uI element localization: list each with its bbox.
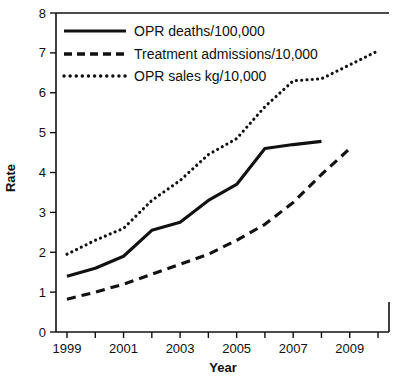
series-line-dashed — [67, 149, 350, 300]
y-tick-label: 8 — [39, 6, 46, 21]
x-axis-title: Year — [209, 360, 236, 375]
y-axis-ticks: 012345678 — [39, 6, 56, 340]
x-tick-label: 2001 — [109, 341, 138, 356]
y-tick-label: 0 — [39, 325, 46, 340]
line-chart-figure: 012345678 199920012003200520072009 Year … — [0, 0, 408, 381]
y-tick-label: 4 — [39, 165, 46, 180]
chart-legend: OPR deaths/100,000Treatment admissions/1… — [64, 23, 318, 84]
x-tick-label: 2009 — [335, 341, 364, 356]
y-tick-label: 5 — [39, 125, 46, 140]
x-axis-ticks: 199920012003200520072009 — [53, 332, 378, 356]
x-tick-label: 1999 — [53, 341, 82, 356]
series-line-solid — [67, 141, 321, 276]
y-axis-title: Rate — [3, 164, 18, 192]
x-tick-label: 2005 — [222, 341, 251, 356]
x-tick-label: 2003 — [166, 341, 195, 356]
y-tick-label: 7 — [39, 45, 46, 60]
data-series-layer — [67, 51, 378, 299]
chart-canvas: 012345678 199920012003200520072009 Year … — [0, 0, 408, 381]
x-tick-label: 2007 — [279, 341, 308, 356]
y-tick-label: 3 — [39, 205, 46, 220]
legend-label: OPR sales kg/10,000 — [134, 68, 267, 84]
legend-label: OPR deaths/100,000 — [134, 23, 265, 39]
y-tick-label: 2 — [39, 245, 46, 260]
y-tick-label: 1 — [39, 285, 46, 300]
legend-label: Treatment admissions/10,000 — [134, 46, 318, 62]
y-tick-label: 6 — [39, 85, 46, 100]
